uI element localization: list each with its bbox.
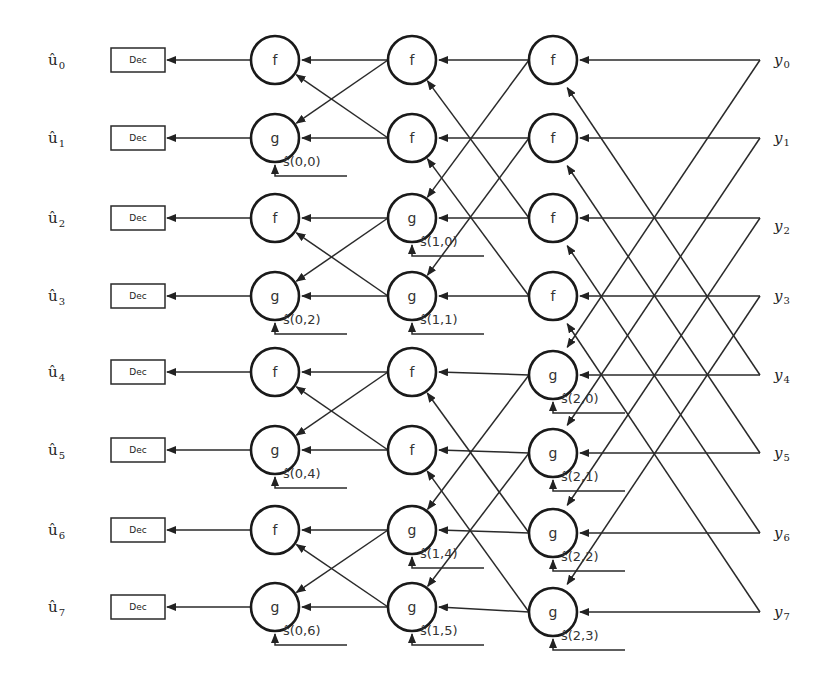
decision-label: Dec xyxy=(129,133,146,143)
decision-label: Dec xyxy=(129,445,146,455)
node-f-stage1-row0: f xyxy=(388,36,436,84)
stage-cross-wire xyxy=(428,453,529,586)
node-f-stage2-row0: f xyxy=(529,36,577,84)
node-label: g xyxy=(549,445,558,461)
output-label-u5: û5 xyxy=(48,441,65,461)
decision-block-2: Dec xyxy=(111,206,165,230)
stage-cross-wire xyxy=(427,60,529,197)
node-label: g xyxy=(271,130,280,146)
stage-cross-wire xyxy=(427,471,529,612)
node-label: g xyxy=(408,288,417,304)
output-label-u1: û1 xyxy=(48,129,65,149)
decision-block-6: Dec xyxy=(111,518,165,542)
decision-block-0: Dec xyxy=(111,48,165,72)
input-label-y0: y0 xyxy=(773,51,790,70)
node-label: g xyxy=(271,599,280,615)
input-cross-wire xyxy=(567,88,760,375)
stage-cross-wire xyxy=(427,81,529,218)
stage-cross-wire xyxy=(296,75,388,138)
partial-sum-feedback: ŝ(2,2) xyxy=(553,549,625,571)
decision-block-5: Dec xyxy=(111,438,165,462)
stage-cross-wire xyxy=(296,60,388,123)
input-label-y7: y7 xyxy=(773,603,790,622)
node-f-stage2-row3: f xyxy=(529,272,577,320)
node-f-stage0-row6: f xyxy=(251,506,299,554)
decision-block-3: Dec xyxy=(111,284,165,308)
output-label-u6: û6 xyxy=(48,521,65,541)
output-label-u3: û3 xyxy=(48,287,65,307)
input-label-y6: y6 xyxy=(773,524,790,543)
partial-sum-feedback: ŝ(2,3) xyxy=(553,628,625,650)
node-label: g xyxy=(271,442,280,458)
decision-label: Dec xyxy=(129,55,146,65)
partial-sum-label: ŝ(2,2) xyxy=(561,549,599,564)
stage-cross-wire xyxy=(296,233,388,296)
stage-cross-wire xyxy=(296,372,388,435)
partial-sum-label: ŝ(2,1) xyxy=(561,469,599,484)
partial-sum-feedback: ŝ(0,0) xyxy=(275,154,347,176)
stage-wire xyxy=(439,607,529,612)
partial-sum-label: ŝ(0,0) xyxy=(283,154,321,169)
stage-wire xyxy=(439,372,529,375)
partial-sum-feedback: ŝ(0,4) xyxy=(275,466,347,488)
node-label: g xyxy=(408,599,417,615)
polar-decoder-diagram: fgfgfgfgffggffggffffgggg ŝ(0,0)ŝ(0,2)ŝ(0… xyxy=(0,0,834,697)
input-label-y5: y5 xyxy=(773,444,790,463)
stage-wire xyxy=(439,530,529,533)
stage-cross-wire xyxy=(427,393,529,533)
decision-block-7: Dec xyxy=(111,595,165,619)
nodes: fgfgfgfgffggffggffffgggg xyxy=(251,36,577,636)
partial-sum-label: ŝ(1,5) xyxy=(420,623,458,638)
node-f-stage1-row4: f xyxy=(388,348,436,396)
partial-sum-label: ŝ(1,0) xyxy=(420,234,458,249)
input-label-y3: y3 xyxy=(773,287,790,306)
node-f-stage2-row1: f xyxy=(529,114,577,162)
node-label: g xyxy=(549,367,558,383)
node-f-stage0-row0: f xyxy=(251,36,299,84)
partial-sum-feedback: ŝ(0,2) xyxy=(275,312,347,334)
stage-cross-wire xyxy=(296,218,388,281)
input-cross-wire xyxy=(567,60,760,347)
node-f-stage1-row5: f xyxy=(388,426,436,474)
partial-sum-feedback: ŝ(1,0) xyxy=(412,234,484,256)
node-f-stage0-row2: f xyxy=(251,194,299,242)
output-label-u2: û2 xyxy=(48,209,65,229)
node-label: g xyxy=(549,604,558,620)
partial-sum-label: ŝ(0,6) xyxy=(283,623,321,638)
input-cross-wire xyxy=(567,296,760,584)
decision-label: Dec xyxy=(129,525,146,535)
node-f-stage0-row4: f xyxy=(251,348,299,396)
partial-sum-feedback: ŝ(0,6) xyxy=(275,623,347,645)
decision-block-4: Dec xyxy=(111,360,165,384)
stage-cross-wire xyxy=(427,138,529,275)
node-label: g xyxy=(408,210,417,226)
input-label-y1: y1 xyxy=(773,129,790,148)
node-f-stage2-row2: f xyxy=(529,194,577,242)
input-label-y2: y2 xyxy=(773,217,790,236)
decision-label: Dec xyxy=(129,367,146,377)
input-cross-wire xyxy=(567,246,760,533)
partial-sum-feedback: ŝ(1,4) xyxy=(412,546,484,568)
partial-sum-feedback: ŝ(1,5) xyxy=(412,623,484,645)
input-cross-wire xyxy=(567,138,760,425)
stage-cross-wire xyxy=(296,530,388,592)
decision-block-1: Dec xyxy=(111,126,165,150)
decision-label: Dec xyxy=(129,602,146,612)
node-label: g xyxy=(549,525,558,541)
stage-cross-wire xyxy=(428,375,529,509)
partial-sum-feedback: ŝ(2,1) xyxy=(553,469,625,491)
input-label-y4: y4 xyxy=(773,366,790,385)
partial-sum-label: ŝ(1,1) xyxy=(420,312,458,327)
node-label: g xyxy=(408,522,417,538)
output-label-u0: û0 xyxy=(48,51,65,71)
output-label-u7: û7 xyxy=(48,598,65,618)
stage-wire xyxy=(439,450,529,453)
partial-sum-label: ŝ(0,4) xyxy=(283,466,321,481)
node-label: g xyxy=(271,288,280,304)
partial-sum-feedback: ŝ(1,1) xyxy=(412,312,484,334)
partial-sum-label: ŝ(2,3) xyxy=(561,628,599,643)
stage-cross-wire xyxy=(427,159,529,296)
input-cross-wire xyxy=(567,166,760,453)
partial-sum-label: ŝ(1,4) xyxy=(420,546,458,561)
output-label-u4: û4 xyxy=(48,363,65,383)
